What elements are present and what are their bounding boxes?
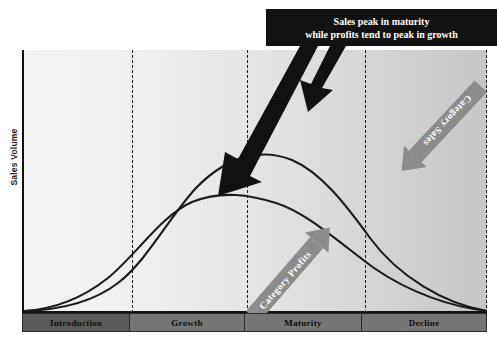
callout-box: Sales peak in maturity while profits ten… xyxy=(266,9,497,46)
curves-and-annotations-layer: Category Sales Category Profits xyxy=(0,0,497,338)
stage-label-maturity: Maturity xyxy=(245,314,363,331)
stage-label-decline: Decline xyxy=(362,314,486,331)
category-profits-curve xyxy=(24,195,487,311)
category-profits-ribbon: Category Profits xyxy=(241,217,342,326)
product-life-cycle-chart: Sales Volume Category Sales Ca xyxy=(0,0,497,338)
stage-label-introduction: Introduction xyxy=(23,314,130,331)
callout-line-1: Sales peak in maturity xyxy=(334,15,430,28)
callout-arrow-to-profits xyxy=(218,46,318,196)
category-sales-ribbon-label: Category Sales xyxy=(421,93,473,148)
category-profits-ribbon-label: Category Profits xyxy=(257,249,313,311)
callout-line-2: while profits tend to peak in growth xyxy=(305,28,457,41)
stage-bar: Introduction Growth Maturity Decline xyxy=(22,313,487,332)
category-sales-ribbon: Category Sales xyxy=(390,76,492,182)
stage-label-growth: Growth xyxy=(130,314,244,331)
